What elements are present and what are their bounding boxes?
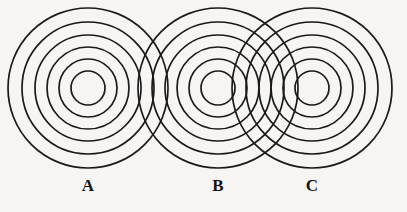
source-label-a: A <box>73 177 103 194</box>
source-label-b: B <box>203 177 233 194</box>
wavefront-diagram: A B C <box>0 0 407 212</box>
source-label-c: C <box>297 177 327 194</box>
